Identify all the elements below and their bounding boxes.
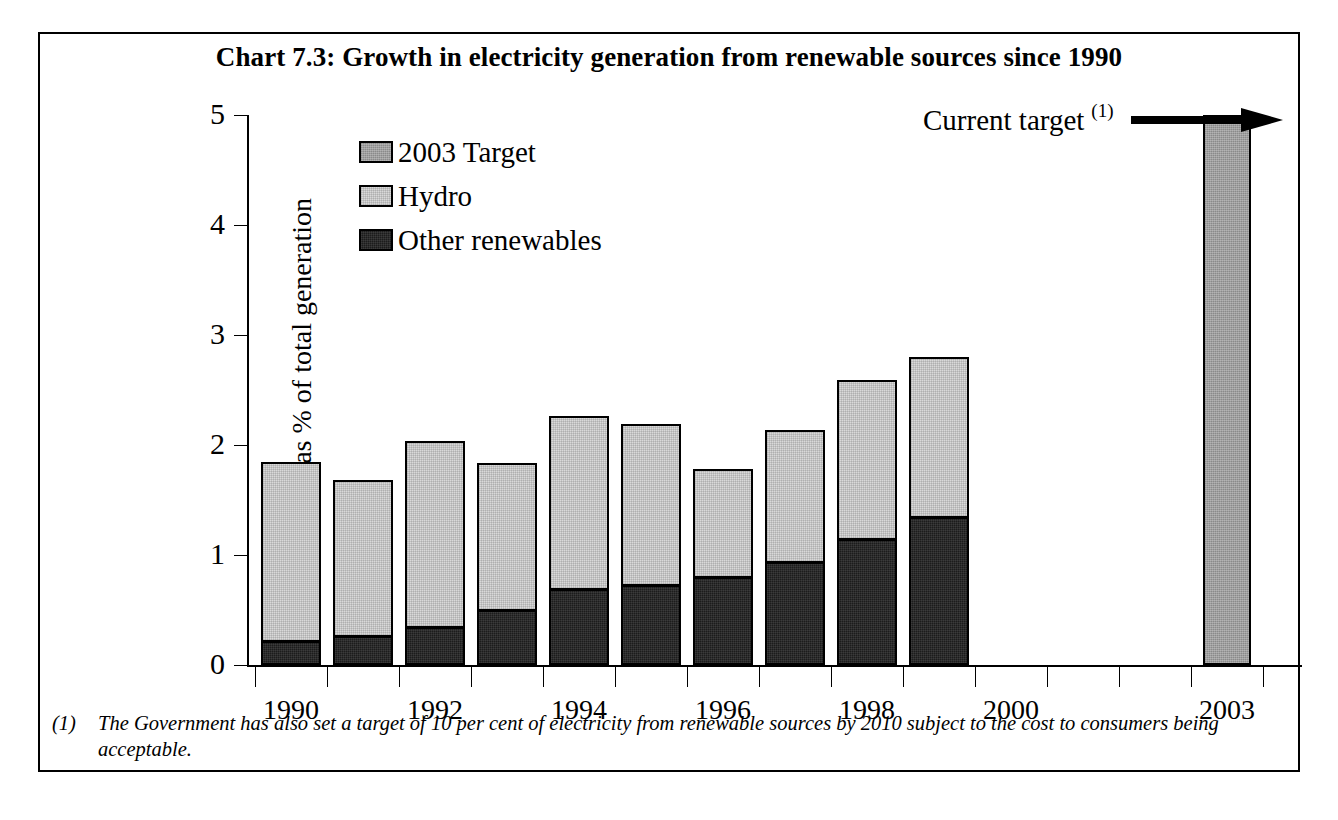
bar-1994-hydro bbox=[549, 416, 609, 589]
other-renewables-swatch-icon bbox=[359, 229, 393, 251]
bar-1990-other-renewables bbox=[261, 641, 321, 665]
bar-1992-other-renewables bbox=[405, 627, 465, 666]
bar-1996-hydro bbox=[693, 469, 753, 577]
bar-1990-hydro bbox=[261, 462, 321, 641]
bar-1993 bbox=[477, 463, 537, 665]
bar-2003-target-fill bbox=[1203, 115, 1251, 665]
x-tick-13 bbox=[1191, 667, 1192, 687]
bar-1993-other-renewables bbox=[477, 610, 537, 665]
y-tick-label-2: 2 bbox=[210, 428, 225, 460]
y-tick-0: 0 bbox=[234, 665, 247, 666]
right-arrow-icon bbox=[1131, 107, 1283, 133]
x-axis-line bbox=[247, 665, 1302, 667]
x-tick-14 bbox=[1263, 667, 1264, 687]
bar-1996-other-renewables bbox=[693, 577, 753, 665]
y-tick-3: 3 bbox=[234, 335, 247, 336]
bar-1994-other-renewables bbox=[549, 589, 609, 665]
legend: 2003 Target Hydro Other renewables bbox=[359, 137, 602, 269]
current-target-footnote-marker: (1) bbox=[1091, 100, 1113, 122]
y-tick-1: 1 bbox=[234, 555, 247, 556]
bar-1995 bbox=[621, 424, 681, 665]
current-target-annotation: Current target (1) bbox=[923, 105, 1283, 135]
bar-1998-other-renewables bbox=[837, 539, 897, 666]
bar-1991-hydro bbox=[333, 480, 393, 636]
bar-2003-target bbox=[1203, 115, 1251, 665]
bar-1999 bbox=[909, 357, 969, 665]
bar-1995-other-renewables bbox=[621, 585, 681, 665]
bar-1997 bbox=[765, 430, 825, 665]
x-tick-12 bbox=[1119, 667, 1120, 687]
bar-1998-hydro bbox=[837, 380, 897, 538]
legend-item-hydro: Hydro bbox=[359, 181, 602, 211]
bar-1993-hydro bbox=[477, 463, 537, 610]
x-tick-2 bbox=[399, 667, 400, 687]
x-tick-0 bbox=[255, 667, 256, 687]
x-tick-6 bbox=[687, 667, 688, 687]
bar-1997-other-renewables bbox=[765, 562, 825, 665]
y-tick-4: 4 bbox=[234, 225, 247, 226]
x-tick-5 bbox=[615, 667, 616, 687]
y-axis-line bbox=[247, 115, 249, 665]
chart-figure: Chart 7.3: Growth in electricity generat… bbox=[38, 32, 1300, 772]
bar-1999-hydro bbox=[909, 357, 969, 517]
hydro-swatch-icon bbox=[359, 185, 393, 207]
x-tick-3 bbox=[471, 667, 472, 687]
legend-item-2003-target: 2003 Target bbox=[359, 137, 602, 167]
y-tick-label-1: 1 bbox=[210, 538, 225, 570]
y-tick-label-4: 4 bbox=[210, 208, 225, 240]
x-tick-7 bbox=[759, 667, 760, 687]
x-tick-1 bbox=[327, 667, 328, 687]
legend-item-other-renewables: Other renewables bbox=[359, 225, 602, 255]
x-tick-8 bbox=[831, 667, 832, 687]
legend-label-2003-target: 2003 Target bbox=[398, 137, 536, 167]
footnote-text: The Government has also set a target of … bbox=[98, 710, 1288, 762]
bar-1992-hydro bbox=[405, 441, 465, 627]
y-tick-label-0: 0 bbox=[210, 648, 225, 680]
y-tick-label-5: 5 bbox=[210, 98, 225, 130]
x-tick-4 bbox=[543, 667, 544, 687]
x-tick-9 bbox=[903, 667, 904, 687]
chart-title: Chart 7.3: Growth in electricity generat… bbox=[40, 42, 1298, 73]
target-swatch-icon bbox=[359, 141, 393, 163]
bar-1997-hydro bbox=[765, 430, 825, 562]
plot-area: 0 1 2 3 4 5 1990 199 bbox=[247, 115, 1302, 665]
bar-1998 bbox=[837, 380, 897, 665]
bar-1994 bbox=[549, 416, 609, 665]
y-tick-2: 2 bbox=[234, 445, 247, 446]
x-tick-11 bbox=[1047, 667, 1048, 687]
current-target-label: Current target bbox=[923, 105, 1084, 135]
bar-1995-hydro bbox=[621, 424, 681, 585]
y-tick-5: 5 bbox=[234, 115, 247, 116]
bar-1991 bbox=[333, 480, 393, 665]
bar-1991-other-renewables bbox=[333, 636, 393, 665]
y-tick-label-3: 3 bbox=[210, 318, 225, 350]
bar-1992 bbox=[405, 441, 465, 665]
footnote-marker: (1) bbox=[52, 710, 98, 762]
footnote: (1) The Government has also set a target… bbox=[52, 710, 1288, 762]
x-tick-10 bbox=[975, 667, 976, 687]
legend-label-hydro: Hydro bbox=[398, 181, 472, 211]
legend-label-other-renewables: Other renewables bbox=[398, 225, 602, 255]
bar-1999-other-renewables bbox=[909, 517, 969, 666]
bar-1990 bbox=[261, 462, 321, 666]
bar-1996 bbox=[693, 469, 753, 665]
